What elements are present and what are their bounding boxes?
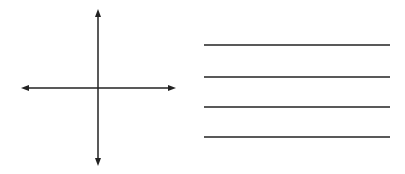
y-axis-up-arrow-icon <box>95 9 101 17</box>
y-axis-down-arrow-icon <box>95 158 101 166</box>
answer-lines <box>204 45 390 137</box>
x-axis-right-arrow-icon <box>168 85 176 91</box>
coordinate-axes <box>21 9 176 166</box>
diagram-canvas <box>0 0 405 174</box>
x-axis-left-arrow-icon <box>21 85 29 91</box>
